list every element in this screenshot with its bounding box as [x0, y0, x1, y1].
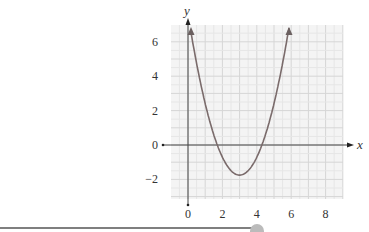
y-tick-label: 0	[152, 138, 158, 152]
x-tick-label: 2	[219, 207, 225, 221]
x-axis-label: x	[356, 137, 363, 152]
y-axis-label: y	[182, 3, 190, 18]
y-tick-label: 4	[152, 69, 158, 83]
parabola-chart: xy024686420−2	[0, 0, 369, 232]
y-tick-label: 6	[152, 35, 158, 49]
slider-handle[interactable]	[250, 224, 264, 232]
x-tick-label: 4	[254, 207, 260, 221]
x-tick-label: 0	[185, 207, 191, 221]
progress-slider[interactable]	[0, 224, 264, 232]
x-tick-label: 6	[288, 207, 294, 221]
y-tick-label: −2	[145, 172, 158, 186]
grid	[171, 25, 343, 199]
x-tick-label: 8	[323, 207, 329, 221]
y-tick-label: 2	[152, 104, 158, 118]
